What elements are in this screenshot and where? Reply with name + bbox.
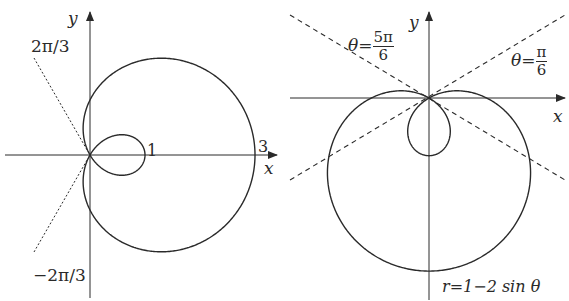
tangent-label-5pi-6: θ=5π6 bbox=[348, 30, 394, 63]
fraction-numerator: π bbox=[536, 45, 548, 62]
tick-label-3: 3 bbox=[258, 139, 268, 155]
left-x-axis-label: x bbox=[264, 160, 274, 177]
equation-label: r=1−2 sin θ bbox=[442, 279, 540, 295]
right-y-axis-label: y bbox=[409, 14, 419, 31]
tick-label-1: 1 bbox=[147, 143, 157, 159]
fraction-denominator: 6 bbox=[537, 62, 547, 78]
tangent-label-pi-6: θ=π6 bbox=[511, 45, 547, 78]
right-x-axis-label: x bbox=[553, 108, 563, 125]
tangent-line-2pi-3 bbox=[34, 58, 90, 155]
tangent-line-neg-2pi-3 bbox=[34, 155, 90, 252]
angle-label-2pi-3: 2π/3 bbox=[31, 38, 70, 55]
fraction-5pi-6: 5π6 bbox=[373, 30, 394, 63]
equals-sign: = bbox=[521, 50, 535, 70]
fraction-denominator: 6 bbox=[378, 47, 388, 63]
fraction-numerator: 5π bbox=[373, 30, 394, 47]
theta-symbol: θ bbox=[511, 50, 521, 70]
left-y-axis-label: y bbox=[68, 10, 78, 27]
equals-sign: = bbox=[358, 35, 372, 55]
angle-label-neg-2pi-3: −2π/3 bbox=[33, 267, 86, 284]
fraction-pi-6: π6 bbox=[536, 45, 548, 78]
polar-curves-figure bbox=[0, 0, 569, 301]
theta-symbol: θ bbox=[348, 35, 358, 55]
